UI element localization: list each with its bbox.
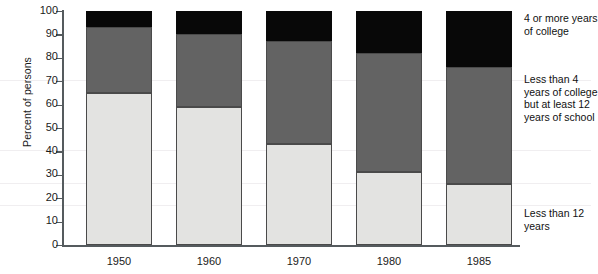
legend-label-4-or-more-college: 4 or more years of college [524, 12, 598, 37]
y-axis-line [62, 10, 64, 246]
bar-segment-less-than-12-years[interactable] [356, 172, 422, 245]
bar-1980[interactable] [356, 11, 422, 245]
bar-1950[interactable] [86, 11, 152, 245]
bar-segment-less-than-12-years[interactable] [446, 184, 512, 245]
x-tick-label-1950: 1950 [74, 255, 164, 267]
y-tick-label: 70 [46, 74, 58, 86]
x-tick-label-1970: 1970 [254, 255, 344, 267]
x-tick-label-1985: 1985 [434, 255, 524, 267]
bar-segment-less-than-12-years[interactable] [176, 107, 242, 245]
x-axis-line [62, 245, 520, 247]
bar-segment-less-than-12-years[interactable] [266, 144, 332, 245]
y-axis-title: Percent of persons [21, 27, 33, 177]
legend-label-less-than-12-years: Less than 12 years [524, 207, 598, 232]
y-tick-label: 30 [46, 167, 58, 179]
y-tick-label: 90 [46, 27, 58, 39]
bar-1985[interactable] [446, 11, 512, 245]
y-tick-label: 0 [52, 238, 58, 250]
bar-segment-4-or-more-college[interactable] [446, 11, 512, 67]
y-tick-label: 60 [46, 97, 58, 109]
bar-segment-some-college[interactable] [86, 27, 152, 93]
bar-segment-4-or-more-college[interactable] [86, 11, 152, 27]
bar-segment-some-college[interactable] [446, 67, 512, 184]
bar-1970[interactable] [266, 11, 332, 245]
bar-1960[interactable] [176, 11, 242, 245]
plot-area: 100 90 80 70 60 50 40 30 20 10 0 [62, 11, 520, 245]
bar-segment-4-or-more-college[interactable] [176, 11, 242, 34]
bar-segment-less-than-12-years[interactable] [86, 93, 152, 245]
bar-segment-some-college[interactable] [176, 34, 242, 107]
bar-segment-4-or-more-college[interactable] [356, 11, 422, 53]
bar-segment-some-college[interactable] [266, 41, 332, 144]
legend-label-some-college: Less than 4 years of college but at leas… [524, 73, 598, 123]
bar-segment-some-college[interactable] [356, 53, 422, 172]
bar-segment-4-or-more-college[interactable] [266, 11, 332, 41]
y-tick-label: 40 [46, 144, 58, 156]
y-tick-label: 10 [46, 214, 58, 226]
x-tick-label-1980: 1980 [344, 255, 434, 267]
y-tick-label: 50 [46, 121, 58, 133]
x-tick-label-1960: 1960 [164, 255, 254, 267]
y-tick-label: 100 [40, 4, 58, 16]
y-tick-label: 80 [46, 50, 58, 62]
y-tick-label: 20 [46, 191, 58, 203]
